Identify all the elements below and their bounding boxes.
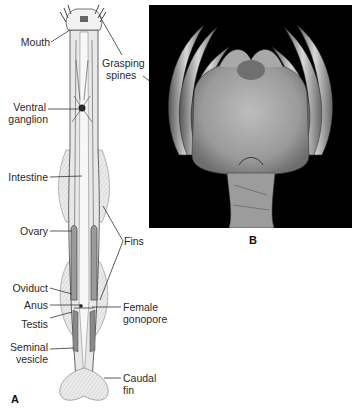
label-intestine: Intestine [0,171,48,183]
sem-micrograph [149,5,352,228]
label-fins: Fins [124,235,144,247]
label-female-gonopore-line2: gonopore [123,313,167,325]
caudal-fin [60,368,108,400]
label-grasping-spines-line2: spines [106,69,136,81]
label-testis: Testis [0,318,48,330]
label-grasping-spines-line1: Grasping [102,57,145,69]
label-ventral-ganglion-line2: ganglion [2,113,48,125]
label-seminal-vesicle-line2: vesicle [0,353,48,365]
label-ovary: Ovary [0,225,48,237]
neck [227,173,275,228]
panel-letter-b: B [249,234,257,246]
head [60,5,106,30]
label-mouth: Mouth [6,36,50,48]
label-caudal-fin-line2: fin [123,384,134,396]
panel-letter-a: A [11,393,19,405]
intestine [79,32,89,380]
label-ventral-ganglion-line1: Ventral [2,101,46,113]
label-female-gonopore-line1: Female [123,301,158,313]
label-oviduct: Oviduct [0,282,48,294]
label-seminal-vesicle-line1: Seminal [0,341,48,353]
label-caudal-fin-line1: Caudal [123,372,156,384]
label-anus: Anus [0,299,48,311]
